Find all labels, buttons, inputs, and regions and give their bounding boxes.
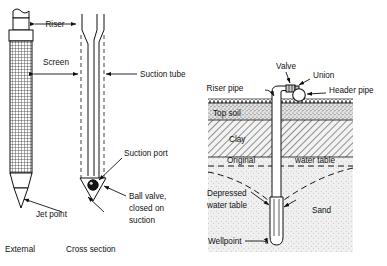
label-depressed-line2: water table xyxy=(206,201,247,210)
screen-mesh-body xyxy=(10,41,32,173)
label-wellpoint: Wellpoint xyxy=(208,237,242,246)
label-sand: Sand xyxy=(312,206,332,215)
label-ball-valve-line1: Ball valve, xyxy=(129,192,166,201)
ball-valve-leader xyxy=(104,186,126,196)
riser-collar xyxy=(9,30,33,41)
ball-valve xyxy=(88,180,98,190)
suction-tube-wall-inner xyxy=(94,14,97,176)
ball-valve-highlight xyxy=(90,182,93,185)
cross-section-view xyxy=(80,14,106,201)
jet-point-cone xyxy=(14,188,28,208)
union-leader xyxy=(299,79,310,85)
label-top-soil: Top soil xyxy=(213,109,241,118)
label-ball-valve-line3: suction xyxy=(129,216,155,225)
label-union: Union xyxy=(313,71,335,80)
label-original-water-table: Original xyxy=(227,156,255,165)
external-wellpoint-view xyxy=(9,9,33,208)
riser-shaft-external xyxy=(13,18,29,30)
label-screen: Screen xyxy=(43,58,69,67)
riser-torn-top xyxy=(13,9,29,18)
suction-tube-wall-right xyxy=(99,14,104,178)
screen-shoe xyxy=(10,173,32,188)
label-riser: Riser xyxy=(45,20,64,29)
valve-leader xyxy=(286,72,290,83)
label-water-table: water table xyxy=(294,156,335,165)
label-riser-pipe: Riser pipe xyxy=(207,84,244,93)
suction-tube-wall-left xyxy=(82,14,88,176)
caption-external: External xyxy=(5,245,35,254)
wellpoint-body xyxy=(270,197,283,245)
left-panel-leaders xyxy=(24,24,137,212)
label-jet-point: Jet point xyxy=(36,210,68,219)
jet-point-leader-section xyxy=(88,197,104,212)
header-pipe-cross-section xyxy=(293,89,306,102)
header-pipe-leader xyxy=(307,93,326,94)
label-valve: Valve xyxy=(276,62,296,71)
label-clay: Clay xyxy=(229,135,246,144)
riser-pipe-body-fill xyxy=(272,92,281,212)
wellpoint-diagram: Riser Screen Suction tube Suction port B… xyxy=(0,0,387,266)
label-ball-valve-line2: closed on xyxy=(129,204,164,213)
caption-cross-section: Cross section xyxy=(66,245,116,254)
label-suction-port: Suction port xyxy=(124,149,168,158)
label-suction-tube: Suction tube xyxy=(140,70,186,79)
label-header-pipe: Header pipe xyxy=(329,86,374,95)
label-depressed-line1: Depressed xyxy=(207,189,247,198)
suction-port-leader xyxy=(99,158,122,180)
